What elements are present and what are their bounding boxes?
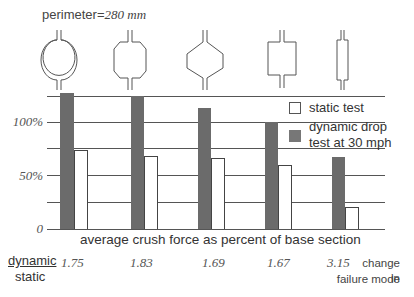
bar-dynamic-square (265, 122, 278, 229)
ytick-100: 100% (3, 114, 43, 130)
square-section-icon (260, 30, 306, 90)
ytick-50: 50% (3, 168, 43, 184)
title-value: 280 mm (105, 7, 147, 22)
bar-dynamic-hexagon (198, 108, 211, 229)
bar-static-circle (74, 150, 88, 229)
bar-dynamic-circle (60, 93, 74, 229)
legend-static-label: static test (309, 100, 364, 115)
ratio-numerator: dynamic (8, 253, 56, 268)
title-label: perimeter= (42, 7, 105, 22)
hexagon-section-icon (183, 30, 229, 90)
bar-dynamic-octagon (131, 96, 144, 229)
bar-static-hexagon (211, 158, 225, 229)
failure-note-line2: failure mode (330, 272, 400, 287)
x-axis-label: average crush force as percent of base s… (80, 232, 361, 247)
ratio-square: 1.67 (267, 255, 290, 271)
gridline-top (47, 96, 385, 97)
chart-title: perimeter=280 mm (42, 7, 146, 23)
legend-dynamic-label-1: dynamic drop (309, 119, 387, 134)
ratio-denominator: static (15, 269, 45, 284)
legend-static-swatch (289, 102, 301, 114)
bar-static-octagon (144, 156, 158, 229)
legend-dynamic-label-2: test at 30 mph (309, 135, 391, 150)
rectangle-section-icon (328, 30, 358, 90)
ytick-0: 0 (3, 221, 43, 237)
ratio-rectangle: 3.15 (327, 255, 350, 271)
ratio-hexagon: 1.69 (202, 255, 225, 271)
ratio-circle: 1.75 (61, 255, 84, 271)
bar-dynamic-rectangle (332, 157, 345, 229)
octagon-section-icon (108, 30, 154, 90)
bar-static-square (278, 165, 292, 229)
legend-dynamic-swatch (289, 130, 301, 142)
bar-static-rectangle (345, 207, 359, 229)
gridline-0 (47, 229, 385, 230)
circle-section-icon (36, 30, 82, 90)
ratio-octagon: 1.83 (130, 255, 153, 271)
